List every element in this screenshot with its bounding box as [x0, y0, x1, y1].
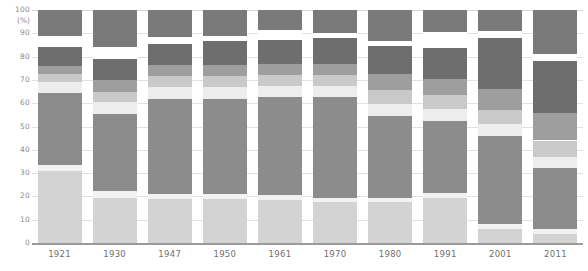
- segment-series-8-1970: [313, 10, 357, 33]
- y-tick-60: 60: [0, 99, 30, 107]
- segment-series-6-1970: [313, 64, 357, 76]
- segment-series-4-1921: [38, 82, 82, 92]
- segment-series-gap-1947: [148, 37, 192, 44]
- segment-series-7-1950: [203, 41, 247, 64]
- segment-series-1-1961: [258, 200, 302, 243]
- y-axis: 100 (%) 90 80 70 60 50 40 30 20 10 0: [0, 0, 30, 271]
- segment-series-5-1961: [258, 75, 302, 85]
- segment-series-3-1961: [258, 97, 302, 195]
- segment-series-gap-1970: [313, 33, 357, 38]
- segment-series-4-1950: [203, 87, 247, 99]
- y-tick-50: 50: [0, 123, 30, 131]
- segment-series-4-1980: [368, 104, 412, 116]
- segment-series-2-1991: [423, 193, 467, 198]
- bar-2001[interactable]: [478, 10, 522, 243]
- segment-series-2-1930: [93, 191, 137, 198]
- segment-series-7-1921: [38, 47, 82, 66]
- segment-series-8-1950: [203, 10, 247, 36]
- segment-series-6-1980: [368, 74, 412, 90]
- segment-series-5-1991: [423, 95, 467, 109]
- segment-series-6-2011: [533, 113, 577, 141]
- y-tick-100: 100: [0, 6, 30, 14]
- segment-series-5-2011: [533, 141, 577, 157]
- segment-series-4-1930: [93, 102, 137, 114]
- bar-1980[interactable]: [368, 10, 412, 243]
- segment-series-1-1921: [38, 171, 82, 243]
- segment-series-6-2001: [478, 89, 522, 110]
- segment-series-6-1991: [423, 79, 467, 95]
- segment-series-8-1980: [368, 10, 412, 41]
- x-tick-2001: 2001: [470, 249, 530, 259]
- segment-series-7-1930: [93, 59, 137, 80]
- y-tick-0: 0: [0, 239, 30, 247]
- segment-series-1-1930: [93, 198, 137, 243]
- segment-series-2-2011: [533, 229, 577, 234]
- bar-2011[interactable]: [533, 10, 577, 243]
- plot-area: [32, 10, 583, 243]
- segment-series-6-1947: [148, 65, 192, 77]
- segment-series-7-2001: [478, 38, 522, 89]
- x-axis-line: [32, 243, 583, 245]
- segment-series-5-1980: [368, 90, 412, 104]
- x-tick-1980: 1980: [360, 249, 420, 259]
- bar-1947[interactable]: [148, 10, 192, 243]
- segment-series-7-1970: [313, 38, 357, 64]
- segment-series-gap-2011: [533, 54, 577, 61]
- x-tick-1921: 1921: [30, 249, 90, 259]
- segment-series-8-1921: [38, 10, 82, 36]
- bar-1970[interactable]: [313, 10, 357, 243]
- bar-1961[interactable]: [258, 10, 302, 243]
- segment-series-6-1921: [38, 66, 82, 74]
- segment-series-4-2001: [478, 124, 522, 136]
- y-axis-unit-label: (%): [0, 17, 30, 25]
- segment-series-2-1970: [313, 198, 357, 203]
- segment-series-4-2011: [533, 157, 577, 169]
- segment-series-7-1961: [258, 40, 302, 63]
- segment-series-6-1961: [258, 64, 302, 76]
- segment-series-2-1980: [368, 198, 412, 203]
- segment-series-gap-1991: [423, 32, 467, 48]
- bar-1991[interactable]: [423, 10, 467, 243]
- segment-series-3-1980: [368, 116, 412, 198]
- segment-series-4-1961: [258, 86, 302, 98]
- segment-series-1-1947: [148, 199, 192, 243]
- segment-series-gap-1961: [258, 30, 302, 40]
- segment-series-gap-1930: [93, 47, 137, 59]
- segment-series-gap-1950: [203, 36, 247, 42]
- segment-series-2-1961: [258, 195, 302, 200]
- segment-series-7-1947: [148, 44, 192, 65]
- bar-1930[interactable]: [93, 10, 137, 243]
- segment-series-3-1947: [148, 99, 192, 195]
- segment-series-3-1991: [423, 121, 467, 193]
- segment-series-1-1950: [203, 199, 247, 243]
- segment-series-2-1947: [148, 194, 192, 199]
- segment-series-5-1930: [93, 92, 137, 102]
- segment-series-6-1950: [203, 65, 247, 77]
- segment-series-1-1970: [313, 202, 357, 243]
- segment-series-2-1950: [203, 194, 247, 199]
- bar-1950[interactable]: [203, 10, 247, 243]
- segment-series-1-1991: [423, 198, 467, 243]
- y-tick-90: 90: [0, 29, 30, 37]
- y-tick-30: 30: [0, 169, 30, 177]
- segment-series-3-2001: [478, 136, 522, 225]
- x-tick-1961: 1961: [250, 249, 310, 259]
- y-tick-20: 20: [0, 192, 30, 200]
- segment-series-2-1921: [38, 165, 82, 171]
- segment-series-8-1961: [258, 10, 302, 30]
- segment-series-2-2001: [478, 224, 522, 229]
- stacked-bar-chart: 100 (%) 90 80 70 60 50 40 30 20 10 0 192…: [0, 0, 588, 271]
- segment-series-7-2011: [533, 61, 577, 112]
- bar-1921[interactable]: [38, 10, 82, 243]
- segment-series-8-2011: [533, 10, 577, 54]
- segment-series-3-1921: [38, 93, 82, 165]
- y-tick-80: 80: [0, 53, 30, 61]
- segment-series-5-1947: [148, 76, 192, 86]
- segment-series-8-1930: [93, 10, 137, 47]
- y-tick-40: 40: [0, 146, 30, 154]
- segment-series-5-1921: [38, 74, 82, 82]
- y-tick-10: 10: [0, 216, 30, 224]
- segment-series-3-2011: [533, 168, 577, 229]
- segment-series-4-1991: [423, 109, 467, 121]
- x-tick-1991: 1991: [415, 249, 475, 259]
